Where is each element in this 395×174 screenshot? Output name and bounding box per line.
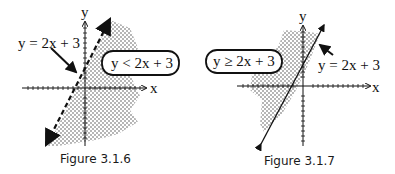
figure-3-1-6: x y y = 2x + 3 y < 2x + 3 (18, 4, 179, 146)
figure-3-1-7: x y y = 2x + 3 y ≥ 2x + 3 (206, 8, 380, 146)
diagram-canvas: x y y = 2x + 3 y < 2x + 3 (0, 0, 395, 174)
figure-caption-1: Figure 3.1.6 (60, 152, 131, 166)
line-equation-label: y = 2x + 3 (18, 35, 80, 51)
inequality-label: y < 2x + 3 (111, 55, 173, 71)
pointer-arrow (51, 48, 76, 72)
shaded-region (250, 30, 320, 132)
pointer-arrow (320, 45, 333, 55)
x-axis-label: x (372, 79, 380, 95)
y-axis-label: y (299, 8, 307, 24)
y-axis-label: y (81, 4, 89, 20)
x-axis-label: x (150, 80, 158, 96)
inequality-label: y ≥ 2x + 3 (213, 53, 275, 69)
line-equation-label: y = 2x + 3 (318, 57, 380, 73)
figure-caption-2: Figure 3.1.7 (264, 154, 335, 168)
